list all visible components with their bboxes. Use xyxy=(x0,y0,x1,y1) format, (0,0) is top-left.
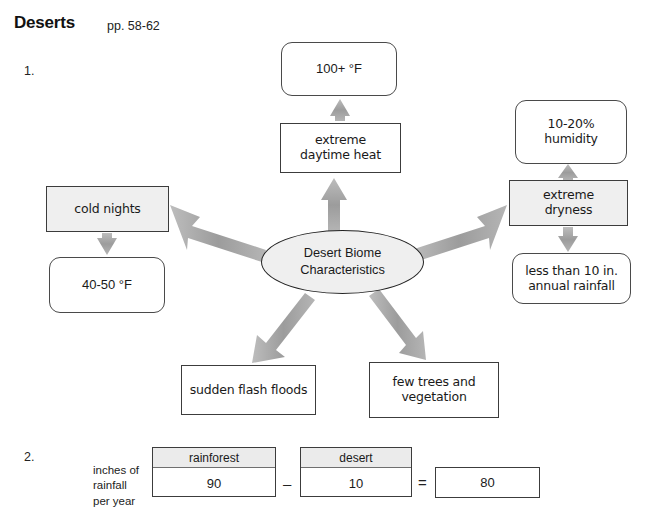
node-extreme-daytime-heat: extreme daytime heat xyxy=(280,123,401,173)
rainfall-line-1: less than 10 in. xyxy=(525,263,618,278)
page-title: Deserts xyxy=(14,13,75,33)
arrow-center-to-dryness xyxy=(411,205,507,262)
node-annual-rainfall: less than 10 in. annual rainfall xyxy=(512,253,631,304)
node-hot-temperature: 100+ °F xyxy=(281,42,397,96)
node-hot-temperature-label: 100+ °F xyxy=(316,61,362,76)
node-humidity: 10-20% humidity xyxy=(515,100,627,164)
dryness-line-1: extreme xyxy=(543,187,594,202)
arrow-center-to-floods xyxy=(252,293,315,363)
node-extreme-dryness: extreme dryness xyxy=(509,180,628,226)
center-node-desert-biome: Desert Biome Characteristics xyxy=(261,230,424,294)
equation-row-label: inches of rainfall per year xyxy=(93,463,139,509)
node-cold-temperature-label: 40-50 °F xyxy=(82,277,132,292)
equation-cell-rainforest: rainforest 90 xyxy=(152,447,276,497)
node-vegetation: few trees and vegetation xyxy=(369,362,499,418)
question-number-1: 1. xyxy=(24,64,34,78)
node-extreme-daytime-heat-label: extreme daytime heat xyxy=(300,133,381,163)
rainfall-line-2: annual rainfall xyxy=(528,278,615,293)
center-node-line-2: Characteristics xyxy=(300,262,385,279)
rainforest-value[interactable]: 90 xyxy=(153,468,275,498)
arrow-dryness-to-rainfall xyxy=(558,227,578,252)
minus-operator: – xyxy=(283,475,291,492)
rainforest-header: rainforest xyxy=(153,448,275,468)
desert-value[interactable]: 10 xyxy=(301,468,411,498)
humidity-line-1: 10-20% xyxy=(547,116,594,131)
node-humidity-label: 10-20% humidity xyxy=(544,117,598,147)
center-node-line-1: Desert Biome xyxy=(304,245,382,262)
page-reference: pp. 58-62 xyxy=(107,19,160,33)
node-cold-nights-label: cold nights xyxy=(74,202,140,217)
node-flash-floods: sudden flash floods xyxy=(181,365,316,415)
equation-cell-desert: desert 10 xyxy=(300,447,412,497)
vegetation-line-2: vegetation xyxy=(401,389,466,404)
arrow-heat-to-temp xyxy=(330,99,350,121)
desert-header: desert xyxy=(301,448,411,468)
arrow-center-to-vegetation xyxy=(369,289,426,360)
worksheet-page: Deserts pp. 58-62 1. 2. xyxy=(0,0,651,527)
result-value: 80 xyxy=(480,475,494,490)
node-cold-nights: cold nights xyxy=(46,186,169,232)
arrow-dryness-to-humidity xyxy=(558,164,578,181)
equation-row-label-line-1: inches of xyxy=(93,463,139,478)
question-number-2: 2. xyxy=(24,450,34,464)
heat-line-2: daytime heat xyxy=(300,147,381,162)
dryness-line-2: dryness xyxy=(545,202,593,217)
arrow-center-to-cold-nights xyxy=(170,205,266,262)
humidity-line-2: humidity xyxy=(544,131,598,146)
heat-line-1: extreme xyxy=(315,132,366,147)
node-annual-rainfall-label: less than 10 in. annual rainfall xyxy=(525,264,618,294)
equation-row-label-line-3: per year xyxy=(93,494,139,509)
vegetation-line-1: few trees and xyxy=(393,374,476,389)
equation-row-label-line-2: rainfall xyxy=(93,478,139,493)
node-vegetation-label: few trees and vegetation xyxy=(393,375,476,405)
node-cold-temperature: 40-50 °F xyxy=(49,257,165,313)
equation-cell-result[interactable]: 80 xyxy=(435,467,540,498)
equals-operator: = xyxy=(418,474,427,491)
node-flash-floods-label: sudden flash floods xyxy=(190,383,308,398)
node-extreme-dryness-label: extreme dryness xyxy=(543,188,594,218)
arrow-cold-nights-to-temp xyxy=(97,233,117,255)
arrow-center-to-heat xyxy=(321,178,347,232)
